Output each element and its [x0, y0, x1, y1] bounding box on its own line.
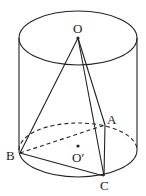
- label-O-prime: O′: [72, 150, 84, 165]
- label-A: A: [107, 112, 117, 127]
- point-O-prime-dot: [76, 144, 79, 147]
- cylinder-cone-diagram: O O′ A B C: [0, 0, 146, 196]
- segment-AC: [104, 125, 105, 176]
- label-C: C: [100, 178, 109, 193]
- segment-OB: [20, 38, 78, 153]
- point-O-dot: [76, 36, 79, 39]
- label-O: O: [73, 21, 82, 36]
- segment-BC: [20, 153, 104, 176]
- segment-BA: [20, 125, 105, 153]
- label-B: B: [6, 148, 15, 163]
